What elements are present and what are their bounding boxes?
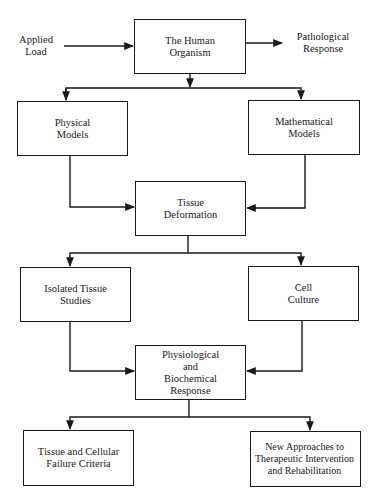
node-human-organism-label: The Human Organism [165,35,215,59]
arrow-to-new-approaches [189,417,310,430]
node-physical-models: Physical Models [17,101,128,156]
node-new-approaches-label: New Approaches to Therapeutic Interventi… [255,441,354,477]
node-cell-culture-label: Cell Culture [288,282,320,306]
arrow-to-failure-criteria [70,417,189,429]
node-isolated-tissue-studies: Isolated Tissue Studies [20,267,131,322]
node-physiological-response: Physiological and Biochemical Response [135,345,246,400]
node-cell-culture: Cell Culture [248,266,359,321]
node-new-approaches: New Approaches to Therapeutic Interventi… [250,431,361,487]
node-failure-criteria-label: Tissue and Cellular Failure Criteria [38,446,119,470]
flow-diagram: Applied Load Pathological Response The H… [0,0,374,504]
node-physical-models-label: Physical Models [55,117,91,141]
node-mathematical-models: Mathematical Models [248,100,360,155]
node-tissue-deformation: Tissue Deformation [135,181,246,236]
node-isolated-tissue-studies-label: Isolated Tissue Studies [44,283,107,307]
node-human-organism: The Human Organism [134,19,246,74]
node-mathematical-models-label: Mathematical Models [275,116,333,140]
arrow-to-cell-culture [188,253,301,265]
arrow-cell-to-physiological [247,321,302,371]
arrow-physical-to-deformation [70,156,134,207]
arrow-mathematical-to-deformation [247,155,305,208]
arrow-to-isolated-tissue [70,253,188,266]
connector-lines [0,0,374,504]
arrow-isolated-to-physiological [70,322,134,371]
split-line-models [66,88,301,100]
node-tissue-deformation-label: Tissue Deformation [164,197,218,221]
node-failure-criteria: Tissue and Cellular Failure Criteria [23,430,134,486]
pathological-response-label: Pathological Response [286,31,360,55]
applied-load-label: Applied Load [8,34,64,58]
node-physiological-response-label: Physiological and Biochemical Response [162,349,219,397]
